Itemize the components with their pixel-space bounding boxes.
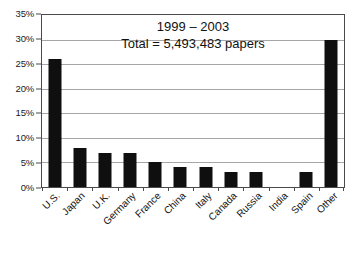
y-tick-label: 15% <box>16 109 34 119</box>
bar-slot <box>143 15 168 187</box>
bar-slot <box>118 15 143 187</box>
bar-slot <box>42 15 67 187</box>
bar[interactable] <box>174 167 187 187</box>
y-tick-label: 0% <box>21 183 34 193</box>
bar-slot <box>193 15 218 187</box>
x-axis-labels: U.S.JapanU.K.GermanyFranceChinaItalyCana… <box>41 188 345 259</box>
bar[interactable] <box>300 172 313 187</box>
plot-area: 1999 – 2003 Total = 5,493,483 papers <box>41 14 345 188</box>
bar[interactable] <box>199 167 212 187</box>
bar-slot <box>92 15 117 187</box>
bar[interactable] <box>124 153 137 187</box>
bar-slot <box>218 15 243 187</box>
bar-slot <box>294 15 319 187</box>
bar[interactable] <box>73 148 86 187</box>
bar-chart: 35% 30% 25% 20% 15% 10% 5% 0% 1999 – 20 <box>0 0 364 259</box>
bar-slot <box>269 15 294 187</box>
bars-layer <box>42 15 344 187</box>
bar-slot <box>243 15 268 187</box>
bar[interactable] <box>149 162 162 187</box>
bar-slot <box>168 15 193 187</box>
y-tick-label: 5% <box>21 158 34 168</box>
y-tick-label: 20% <box>16 84 34 94</box>
y-tick-label: 30% <box>16 34 34 44</box>
y-axis: 35% 30% 25% 20% 15% 10% 5% 0% <box>0 14 41 188</box>
bar-slot <box>319 15 344 187</box>
bar-slot <box>67 15 92 187</box>
y-tick-label: 25% <box>16 59 34 69</box>
y-tick-label: 35% <box>16 9 34 19</box>
y-tick-label: 10% <box>16 134 34 144</box>
bar[interactable] <box>48 59 61 187</box>
bar[interactable] <box>249 172 262 187</box>
bar[interactable] <box>224 172 237 187</box>
bar[interactable] <box>98 153 111 187</box>
bar[interactable] <box>325 40 338 187</box>
